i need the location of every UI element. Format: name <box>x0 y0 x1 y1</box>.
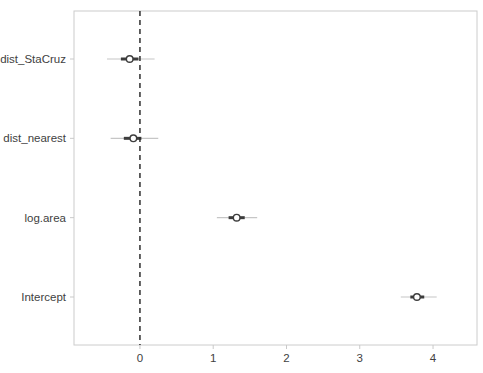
y-axis-label: dist_StaCruz <box>0 53 66 65</box>
x-axis-tick-label: 4 <box>430 352 437 364</box>
estimate-point-dist_nearest <box>130 135 137 142</box>
x-axis-tick-label: 2 <box>283 352 289 364</box>
estimate-point-dist_StaCruz <box>126 56 133 63</box>
x-axis-tick-label: 0 <box>137 352 143 364</box>
estimate-point-Intercept <box>414 294 421 301</box>
plot-svg: dist_StaCruzdist_nearestlog.areaIntercep… <box>0 0 483 373</box>
estimate-point-log.area <box>233 214 240 221</box>
x-axis-tick-label: 3 <box>357 352 363 364</box>
y-axis-label: dist_nearest <box>3 132 66 144</box>
y-axis-label: Intercept <box>21 291 67 303</box>
x-axis-tick-label: 1 <box>210 352 216 364</box>
coefficient-plot-figure: dist_StaCruzdist_nearestlog.areaIntercep… <box>0 0 483 373</box>
y-axis-label: log.area <box>24 212 66 224</box>
